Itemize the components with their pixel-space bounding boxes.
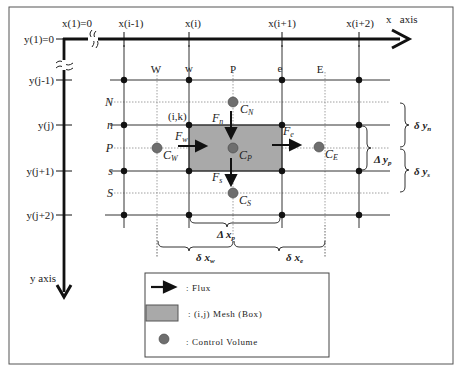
legend-mesh-icon: [146, 305, 178, 321]
x-tick-i: x(i): [185, 17, 201, 30]
flux-label-west: Fw: [174, 129, 188, 144]
axis-ticks: [56, 32, 359, 215]
finite-volume-diagram: x(1)=0 x(i-1) x(i) x(i+1) x(i+2) x axis …: [0, 0, 458, 371]
dim-label-delta-y-s: δ ys: [414, 165, 430, 179]
legend: : Flux : (i,j) Mesh (Box) : Control Volu…: [145, 273, 329, 357]
cv-label-north: CN: [240, 102, 254, 117]
y-tick-1: y(1)=0: [24, 33, 55, 46]
x-tick-i-plus-1: x(i+1): [268, 17, 296, 30]
x-tick-1: x(1)=0: [62, 17, 93, 30]
col-label-W: W: [151, 63, 162, 75]
x-tick-i-minus-1: x(i-1): [118, 17, 143, 30]
y-tick-j-minus-1: y(j-1): [29, 74, 54, 87]
flux-label-north: Fn: [211, 111, 223, 126]
row-label-N: N: [104, 95, 114, 109]
legend-control-volume-label: : Control Volume: [186, 337, 258, 347]
row-label-n: n: [107, 118, 113, 132]
cell-label: (i,k): [168, 110, 187, 123]
row-label-s: s: [108, 164, 113, 178]
control-volume-center: [228, 143, 238, 153]
legend-flux-label: : Flux: [186, 283, 211, 293]
dim-label-Delta-y-p: Δ yp: [373, 153, 392, 167]
flux-label-south: Fs: [211, 170, 222, 185]
control-volume-east: [314, 142, 324, 152]
control-volume-south: [228, 188, 238, 198]
col-label-e: e: [278, 62, 283, 74]
control-volume-west: [152, 143, 162, 153]
y-tick-j-plus-1: y(j+1): [26, 165, 54, 178]
brace-delta-x-w: [158, 241, 233, 251]
row-label-S: S: [107, 186, 113, 200]
col-label-P: P: [230, 63, 236, 75]
brace-delta-x-e: [234, 241, 325, 251]
legend-mesh-label: : (i,j) Mesh (Box): [188, 309, 262, 319]
flux-label-east: Fe: [282, 124, 294, 139]
brace-delta-y-s: [400, 149, 409, 192]
col-label-w: w: [185, 62, 193, 74]
y-tick-j-plus-2: y(j+2): [26, 209, 54, 222]
control-volume-north: [228, 97, 238, 107]
cv-label-east: CE: [325, 147, 338, 162]
x-tick-i-plus-2: x(i+2): [346, 17, 374, 30]
row-label-P: P: [105, 141, 114, 155]
axis-break-marks: [56, 30, 98, 70]
x-axis-label: x axis: [386, 13, 417, 25]
cv-label-west: CW: [163, 148, 179, 163]
col-label-E: E: [317, 63, 324, 75]
dim-label-delta-x-e: δ xe: [286, 251, 303, 265]
dim-label-delta-y-n: δ yn: [414, 119, 431, 133]
dim-label-delta-x-w: δ xw: [196, 251, 215, 265]
brace-delta-y-n: [400, 103, 409, 147]
y-tick-j: y(j): [38, 119, 54, 132]
brace-Delta-x-p: [190, 218, 280, 227]
cv-label-south: CS: [239, 193, 251, 208]
y-axis-label: y axis: [30, 272, 56, 284]
legend-control-volume-icon: [159, 334, 169, 344]
